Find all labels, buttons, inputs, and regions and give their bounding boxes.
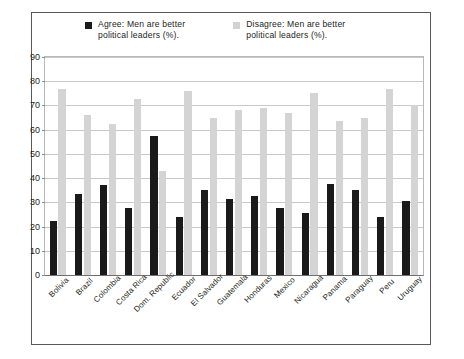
bar-agree xyxy=(75,194,82,275)
plot-area: 0102030405060708090 BoliviaBrazilColombi… xyxy=(44,56,424,276)
y-axis-tick-label: 60 xyxy=(30,125,40,135)
legend-entry-disagree: Disagree: Men are better political leade… xyxy=(233,19,345,41)
bar-agree xyxy=(100,185,107,275)
legend-label-agree: Agree: Men are better political leaders … xyxy=(98,19,185,41)
bar-agree xyxy=(276,208,283,275)
y-axis-tick-label: 90 xyxy=(30,52,40,62)
bar-agree xyxy=(150,136,157,275)
y-axis-tick-label: 0 xyxy=(35,270,40,280)
bar-group: Honduras xyxy=(247,57,272,275)
bar-disagree xyxy=(235,110,242,275)
bar-disagree xyxy=(210,118,217,275)
legend-entry-agree: Agree: Men are better political leaders … xyxy=(85,19,185,41)
bar-disagree xyxy=(386,89,393,276)
bar-group: Mexico xyxy=(272,57,297,275)
bar-group: Uruguay xyxy=(398,57,423,275)
bar-group: Dom. Republic xyxy=(146,57,171,275)
y-axis-tick-label: 30 xyxy=(30,197,40,207)
y-axis-tick-label: 20 xyxy=(30,222,40,232)
bar-agree xyxy=(327,184,334,275)
y-axis-tick-label: 40 xyxy=(30,173,40,183)
chart-legend: Agree: Men are better political leaders … xyxy=(85,19,415,51)
bar-group: Bolivia xyxy=(45,57,70,275)
legend-swatch-disagree-icon xyxy=(233,22,240,29)
bar-disagree xyxy=(109,124,116,275)
bar-disagree xyxy=(285,113,292,275)
bar-agree xyxy=(125,208,132,275)
bar-group: Costa Rica xyxy=(121,57,146,275)
bar-group: Ecuador xyxy=(171,57,196,275)
bar-disagree xyxy=(336,121,343,275)
bar-group: Nicaragua xyxy=(297,57,322,275)
bar-group: Colombia xyxy=(95,57,120,275)
bar-group: Panama xyxy=(322,57,347,275)
bar-disagree xyxy=(411,105,418,275)
chart-figure: Agree: Men are better political leaders … xyxy=(0,0,464,359)
bar-agree xyxy=(251,196,258,275)
bar-agree xyxy=(201,190,208,275)
bar-disagree xyxy=(260,108,267,275)
y-axis-tick-label: 70 xyxy=(30,100,40,110)
bar-group: Peru xyxy=(373,57,398,275)
bar-disagree xyxy=(361,118,368,275)
bar-group: El Salvador xyxy=(196,57,221,275)
bar-disagree xyxy=(84,115,91,275)
bar-agree xyxy=(176,217,183,275)
legend-swatch-agree-icon xyxy=(85,22,92,29)
y-axis-tick-label: 10 xyxy=(30,246,40,256)
y-axis-tick-label: 50 xyxy=(30,149,40,159)
bar-disagree xyxy=(184,91,191,275)
bar-disagree xyxy=(134,99,141,275)
bar-agree xyxy=(352,190,359,275)
y-axis-tick-label: 80 xyxy=(30,76,40,86)
bar-agree xyxy=(226,199,233,275)
bar-disagree xyxy=(310,93,317,275)
legend-label-disagree: Disagree: Men are better political leade… xyxy=(246,19,345,41)
bar-agree xyxy=(402,201,409,275)
bar-agree xyxy=(377,217,384,275)
bar-disagree xyxy=(58,89,65,276)
bar-disagree xyxy=(159,171,166,275)
bar-agree xyxy=(50,221,57,276)
y-axis-tick-mark xyxy=(42,275,45,276)
bar-group: Brazil xyxy=(70,57,95,275)
bar-agree xyxy=(302,213,309,275)
bar-group: Paraguay xyxy=(347,57,372,275)
bar-group: Guatemala xyxy=(221,57,246,275)
